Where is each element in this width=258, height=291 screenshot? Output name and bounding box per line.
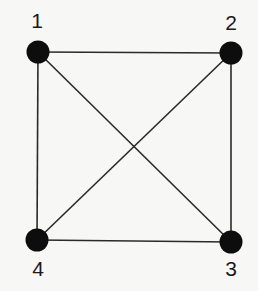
edge-1-2 [38,52,231,53]
node-1 [27,41,50,64]
edge-2-4 [37,53,231,240]
node-label-4: 4 [32,257,44,280]
node-2 [220,42,243,65]
node-4 [26,229,49,252]
graph-svg: 1234 [0,0,258,291]
labels-group: 1234 [31,9,237,280]
node-3 [220,231,243,254]
node-label-2: 2 [225,11,237,34]
graph-diagram: 1234 [0,0,258,291]
edge-4-1 [37,52,38,240]
node-label-3: 3 [225,257,237,280]
node-label-1: 1 [31,9,43,32]
edge-3-4 [37,240,231,242]
edges-group [37,52,231,242]
